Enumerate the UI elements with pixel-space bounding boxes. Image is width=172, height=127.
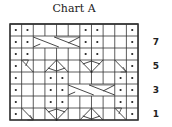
purl-dot-icon [61,101,63,103]
purl-dot-icon [15,29,17,31]
purl-dot-icon [131,65,133,67]
purl-dot-icon [61,89,63,91]
purl-dot-icon [119,77,121,79]
purl-dot-icon [15,53,17,55]
row-label-1: 1 [150,109,162,119]
purl-dot-icon [15,65,17,67]
purl-dot-icon [50,89,52,91]
purl-dot-icon [85,29,87,31]
knitting-chart-grid [0,0,172,127]
purl-dot-icon [131,113,133,115]
purl-dot-icon [131,101,133,103]
purl-dot-icon [50,77,52,79]
purl-dot-icon [50,101,52,103]
purl-dot-icon [131,77,133,79]
purl-dot-icon [119,89,121,91]
purl-dot-icon [15,77,17,79]
row-label-7: 7 [150,37,162,47]
purl-dot-icon [61,77,63,79]
purl-dot-icon [26,41,28,43]
purl-dot-icon [131,53,133,55]
purl-dot-icon [131,41,133,43]
purl-dot-icon [15,101,17,103]
purl-dot-icon [96,53,98,55]
row-label-3: 3 [150,85,162,95]
purl-dot-icon [85,53,87,55]
purl-dot-icon [15,41,17,43]
row-label-5: 5 [150,61,162,71]
purl-dot-icon [15,89,17,91]
purl-dot-icon [26,53,28,55]
purl-dot-icon [85,41,87,43]
purl-dot-icon [26,29,28,31]
purl-dot-icon [15,113,17,115]
purl-dot-icon [96,41,98,43]
purl-dot-icon [131,89,133,91]
purl-dot-icon [96,29,98,31]
purl-dot-icon [131,29,133,31]
purl-dot-icon [119,101,121,103]
